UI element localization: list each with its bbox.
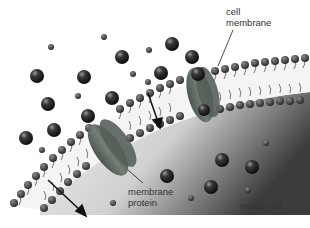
label-membrane-protein: membrane protein: [128, 186, 173, 208]
label-membrane-protein-line1: membrane: [128, 186, 173, 197]
label-cell-membrane-line1: cell: [226, 6, 271, 17]
label-cell-membrane: cell membrane: [226, 6, 271, 28]
label-cell-membrane-line2: membrane: [226, 17, 271, 28]
cell-membrane-leader: [218, 30, 233, 66]
label-inside-cell: inside cell: [240, 200, 282, 211]
label-membrane-protein-line2: protein: [128, 197, 173, 208]
